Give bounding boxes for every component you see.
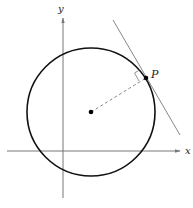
point-p-label: P — [150, 68, 159, 81]
tangent-circle-diagram: x y P — [0, 0, 193, 208]
point-p — [144, 76, 149, 81]
x-axis-label: x — [185, 145, 191, 156]
right-angle-marker — [135, 70, 140, 81]
y-axis-label: y — [57, 3, 64, 14]
radius-dashed — [91, 78, 146, 112]
center-point — [89, 110, 94, 115]
